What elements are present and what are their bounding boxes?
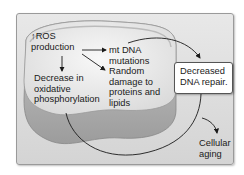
ros-production-label: ↑ROS production bbox=[31, 31, 74, 52]
decreased-dna-repair-label: Decreased DNA repair. bbox=[175, 63, 232, 87]
cellular-aging-label: Cellular aging bbox=[199, 138, 231, 159]
random-damage-label: Random damage to proteins and lipids bbox=[109, 66, 160, 108]
decreased-dna-repair-box: Decreased DNA repair. bbox=[174, 62, 233, 94]
mt-dna-mutations-label: mt DNA mutations bbox=[109, 45, 149, 66]
decrease-oxphos-label: Decrease in oxidative phosphorylation bbox=[34, 73, 100, 105]
